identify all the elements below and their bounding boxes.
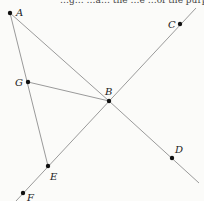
point-g	[26, 80, 30, 84]
segments	[10, 8, 199, 201]
point-label-c: C	[168, 19, 176, 30]
point-label-e: E	[49, 171, 58, 182]
point-b	[107, 99, 111, 103]
point-c	[178, 22, 182, 26]
point-label-a: A	[15, 7, 23, 18]
point-e	[46, 164, 50, 168]
point-label-f: F	[26, 192, 35, 201]
point-label-d: D	[174, 144, 183, 155]
point-label-g: G	[15, 77, 23, 88]
top-caption-fragment: …g… …a… the …e …of the purpo…	[60, 0, 204, 5]
geometry-diagram: …g… …a… the …e …of the purpo… ABCDEFG	[0, 0, 204, 201]
point-d	[170, 156, 174, 160]
segment-ae	[10, 13, 48, 166]
points: ABCDEFG	[8, 7, 183, 201]
segment-ab	[10, 13, 109, 101]
segment-gb	[28, 82, 109, 101]
segment-line-4	[109, 101, 199, 183]
segment-line-3	[16, 8, 196, 201]
diagram-svg: …g… …a… the …e …of the purpo… ABCDEFG	[0, 0, 204, 201]
point-f	[21, 191, 25, 195]
point-label-b: B	[104, 86, 112, 97]
point-a	[8, 11, 12, 15]
